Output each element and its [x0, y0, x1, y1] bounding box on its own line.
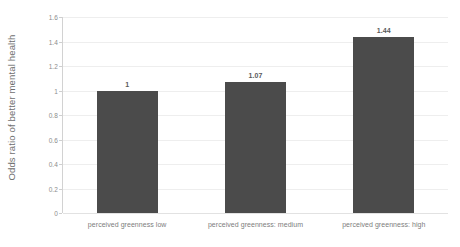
y-axis-tick-label: 0.4: [30, 161, 58, 168]
y-axis-tick-mark: [59, 42, 62, 43]
bar-value-label: 1: [97, 81, 158, 88]
y-axis-tick-label: 0.6: [30, 136, 58, 143]
bar: [353, 37, 414, 213]
category-label: perceived greenness: high: [320, 221, 448, 228]
axis-baseline: [63, 213, 448, 214]
y-axis-tick-label: 0.8: [30, 112, 58, 119]
y-axis-tick-mark: [59, 115, 62, 116]
gridline: [63, 17, 448, 18]
y-axis-tick-label: 1.4: [30, 38, 58, 45]
category-label: perceived greenness: medium: [191, 221, 319, 228]
y-axis-tick-label: 0.2: [30, 185, 58, 192]
y-axis-tick-mark: [59, 91, 62, 92]
y-axis-tick-mark: [59, 189, 62, 190]
y-axis-tick-label: 1.6: [30, 14, 58, 21]
bar: [97, 91, 158, 214]
bar-value-label: 1.44: [353, 27, 414, 34]
y-axis-title: Odds ratio of better mental health: [0, 0, 22, 215]
x-axis-category-labels: perceived greenness lowperceived greenne…: [63, 221, 448, 237]
bar: [225, 82, 286, 213]
y-axis-tick-mark: [59, 140, 62, 141]
y-axis-tick-labels: 00.20.40.60.811.21.41.6: [30, 0, 58, 215]
bar-chart-figure: Odds ratio of better mental health 00.20…: [0, 0, 460, 247]
y-axis-tick-mark: [59, 66, 62, 67]
y-axis-tick-label: 1.2: [30, 63, 58, 70]
y-axis-tick-mark: [59, 17, 62, 18]
y-axis-title-text: Odds ratio of better mental health: [6, 34, 17, 180]
y-axis-tick-label: 0: [30, 210, 58, 217]
y-axis-tick-label: 1: [30, 87, 58, 94]
bar-value-label: 1.07: [225, 72, 286, 79]
y-axis-tick-mark: [59, 213, 62, 214]
plot-area: 11.071.44: [63, 17, 448, 213]
y-axis-tick-mark: [59, 164, 62, 165]
category-label: perceived greenness low: [63, 221, 191, 228]
